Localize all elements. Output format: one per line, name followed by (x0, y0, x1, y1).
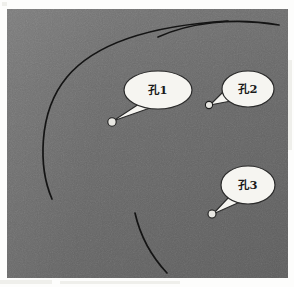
scan-panel: 孔1 孔2 孔3 (7, 9, 288, 278)
margin-smudge (60, 281, 180, 284)
figure-root: 孔1 孔2 孔3 (0, 0, 294, 287)
margin-smudge (2, 2, 7, 6)
hole-marker-2[interactable] (205, 101, 212, 108)
callout-3-label: 孔3 (238, 178, 257, 192)
callout-hole-3[interactable]: 孔3 (208, 166, 275, 218)
callout-1-label: 孔1 (148, 83, 167, 97)
hole-marker-1[interactable] (108, 118, 116, 126)
callout-hole-1[interactable]: 孔1 (108, 71, 192, 126)
margin-smudge (0, 280, 52, 284)
callout-layer: 孔1 孔2 孔3 (7, 9, 288, 278)
hole-marker-3[interactable] (208, 210, 216, 218)
callout-hole-2[interactable]: 孔2 (205, 71, 274, 109)
margin-smudge (288, 60, 292, 150)
callout-2-label: 孔2 (238, 82, 257, 96)
